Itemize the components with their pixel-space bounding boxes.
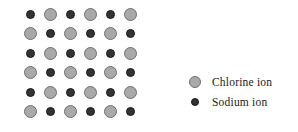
legend-label-chlorine: Chlorine ion — [212, 76, 272, 88]
chlorine-ion — [124, 8, 137, 21]
chlorine-ion — [24, 66, 37, 79]
figure-canvas: Chlorine ion Sodium ion — [0, 0, 298, 132]
sodium-ion — [126, 107, 135, 116]
sodium-ion — [46, 29, 55, 38]
sodium-ion — [106, 88, 115, 97]
sodium-ion — [106, 49, 115, 58]
sodium-ion — [86, 29, 95, 38]
chlorine-ion — [124, 47, 137, 60]
sodium-ion — [86, 107, 95, 116]
chlorine-ion — [44, 8, 57, 21]
chlorine-ion — [64, 66, 77, 79]
legend-label-sodium: Sodium ion — [212, 96, 267, 108]
sodium-ion — [126, 68, 135, 77]
sodium-ion-icon — [186, 98, 204, 106]
chlorine-ion — [124, 86, 137, 99]
sodium-ion — [46, 107, 55, 116]
sodium-ion — [26, 10, 35, 19]
sodium-ion — [66, 49, 75, 58]
chlorine-ion — [64, 27, 77, 40]
sodium-ion — [26, 49, 35, 58]
sodium-ion — [106, 10, 115, 19]
sodium-ion — [26, 88, 35, 97]
chlorine-ion — [24, 105, 37, 118]
chlorine-ion — [104, 66, 117, 79]
chlorine-ion — [24, 27, 37, 40]
chlorine-ion-icon — [186, 76, 204, 88]
chlorine-ion — [104, 105, 117, 118]
legend-item-sodium: Sodium ion — [186, 92, 298, 112]
chlorine-ion — [84, 86, 97, 99]
chlorine-ion — [104, 27, 117, 40]
sodium-ion — [126, 29, 135, 38]
legend: Chlorine ion Sodium ion — [186, 72, 298, 112]
sodium-ion — [66, 10, 75, 19]
legend-item-chlorine: Chlorine ion — [186, 72, 298, 92]
crystal-lattice-diagram — [0, 0, 160, 132]
sodium-ion — [86, 68, 95, 77]
chlorine-ion — [84, 8, 97, 21]
sodium-ion — [46, 68, 55, 77]
chlorine-ion — [44, 86, 57, 99]
chlorine-ion — [64, 105, 77, 118]
sodium-ion — [66, 88, 75, 97]
chlorine-ion — [44, 47, 57, 60]
chlorine-ion — [84, 47, 97, 60]
